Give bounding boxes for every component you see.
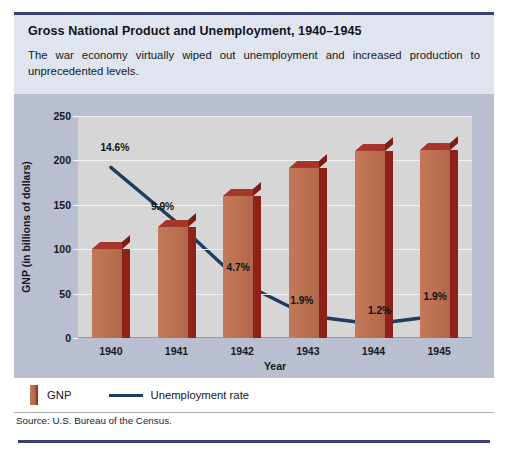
x-axis-tick-label: 1940 (99, 338, 122, 357)
figure-header: Gross National Product and Unemployment,… (14, 15, 494, 94)
x-axis-title: Year (78, 360, 472, 372)
bar-side-face (122, 249, 130, 338)
y-axis-tick-label: 250 (53, 110, 78, 122)
unemployment-value-label: 1.9% (424, 290, 447, 301)
unemployment-value-label: 1.9% (290, 294, 313, 305)
gridline (78, 116, 472, 117)
chart-panel: GNP (in billions of dollars) 05010015020… (14, 94, 494, 378)
x-axis-tick-label: 1943 (296, 338, 319, 357)
y-axis-tick-label: 0 (65, 332, 78, 344)
bottom-divider-rule (18, 440, 490, 443)
unemployment-line-chart (78, 116, 472, 338)
bar-side-face (188, 227, 196, 338)
bar (92, 249, 122, 338)
bar (289, 168, 319, 338)
y-axis-title: GNP (in billions of dollars) (20, 116, 34, 338)
figure-description: The war economy virtually wiped out unem… (28, 47, 480, 79)
y-axis-tick-label: 100 (53, 243, 78, 255)
legend-item-unemployment: Unemployment rate (109, 389, 249, 401)
unemployment-value-label: 9.9% (151, 201, 174, 212)
legend-label-unemployment: Unemployment rate (150, 389, 249, 401)
y-axis-tick-label: 50 (59, 288, 78, 300)
gridline (78, 160, 472, 161)
source-divider-rule (14, 412, 494, 413)
y-axis-tick-label: 200 (53, 154, 78, 166)
unemployment-value-label: 14.6% (100, 142, 129, 153)
source-note: Source: U.S. Bureau of the Census. (14, 415, 494, 426)
x-axis-tick-label: 1942 (230, 338, 253, 357)
bar-front-face (158, 227, 188, 338)
gridline (78, 294, 472, 295)
unemployment-value-label: 4.7% (227, 262, 250, 273)
gnp-swatch-icon (30, 385, 38, 405)
bar-front-face (92, 249, 122, 338)
figure-container: Gross National Product and Unemployment,… (14, 12, 494, 458)
figure-title: Gross National Product and Unemployment,… (28, 24, 480, 38)
gridline (78, 205, 472, 206)
legend-item-gnp: GNP (30, 385, 71, 405)
gridline (78, 249, 472, 250)
unemployment-line-swatch-icon (109, 394, 143, 397)
x-axis-baseline (78, 337, 472, 338)
bar-side-face (253, 196, 261, 338)
unemployment-value-label: 1.2% (368, 304, 391, 315)
y-axis-tick-label: 150 (53, 199, 78, 211)
bar (158, 227, 188, 338)
bar-front-face (289, 168, 319, 338)
x-axis-tick-label: 1945 (427, 338, 450, 357)
plot-area: 0501001502002501940194119421943194419451… (78, 116, 472, 338)
bar (420, 150, 450, 338)
x-axis-tick-label: 1944 (362, 338, 385, 357)
legend-label-gnp: GNP (47, 389, 71, 401)
x-axis-tick-label: 1941 (165, 338, 188, 357)
bar-front-face (420, 150, 450, 338)
bar-side-face (319, 168, 327, 338)
bar-side-face (450, 150, 458, 338)
chart-legend: GNP Unemployment rate (14, 378, 494, 412)
